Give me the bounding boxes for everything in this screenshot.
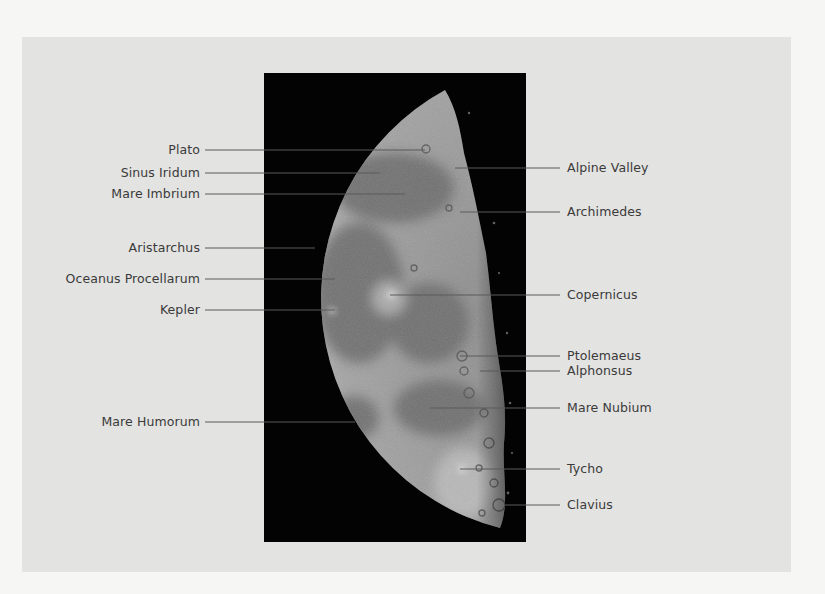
- label-alphonsus: Alphonsus: [567, 364, 632, 378]
- label-mare-nubium: Mare Nubium: [567, 401, 652, 415]
- label-kepler: Kepler: [160, 303, 200, 317]
- label-alpine-valley: Alpine Valley: [567, 161, 649, 175]
- label-copernicus: Copernicus: [567, 288, 638, 302]
- label-ptolemaeus: Ptolemaeus: [567, 349, 641, 363]
- label-aristarchus: Aristarchus: [129, 241, 200, 255]
- moon-image: [264, 73, 526, 542]
- moon-photo: [264, 73, 526, 542]
- label-archimedes: Archimedes: [567, 205, 642, 219]
- label-tycho: Tycho: [567, 462, 603, 476]
- label-plato: Plato: [168, 143, 200, 157]
- label-mare-imbrium: Mare Imbrium: [111, 187, 200, 201]
- label-oceanus-procellarum: Oceanus Procellarum: [65, 272, 200, 286]
- label-clavius: Clavius: [567, 498, 613, 512]
- label-mare-humorum: Mare Humorum: [101, 415, 200, 429]
- label-sinus-iridum: Sinus Iridum: [121, 166, 200, 180]
- moon-lit-surface: [264, 73, 526, 542]
